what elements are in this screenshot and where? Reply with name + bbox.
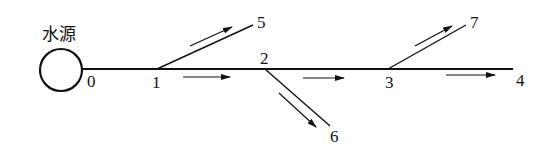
node-label-3: 3 [385, 73, 394, 92]
pipe-network-diagram: 水源 0 1 2 3 4 5 6 7 [0, 0, 555, 157]
water-source-circle-icon [40, 49, 82, 91]
water-source: 水源 [40, 24, 82, 91]
water-source-label: 水源 [42, 24, 76, 44]
node-label-7: 7 [470, 13, 479, 32]
flow-arrow-1-5-icon [190, 27, 232, 46]
node-label-0: 0 [87, 72, 96, 91]
node-label-6: 6 [330, 127, 339, 146]
node-label-4: 4 [516, 71, 525, 90]
node-label-1: 1 [152, 73, 161, 92]
branch-1-5 [157, 25, 253, 69]
node-label-2: 2 [260, 49, 269, 68]
branch-3-7 [388, 25, 466, 69]
node-label-5: 5 [257, 13, 266, 32]
